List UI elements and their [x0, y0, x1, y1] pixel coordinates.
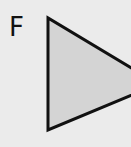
triangle-shape: [0, 0, 131, 147]
